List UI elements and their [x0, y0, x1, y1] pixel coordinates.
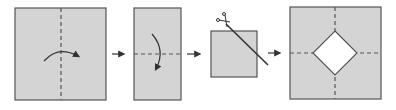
- step-2-rectangle: [134, 8, 181, 100]
- step-4-unfolded-square: [290, 7, 381, 99]
- step-3-small-square: [211, 13, 268, 78]
- paper-folding-diagram: [0, 0, 396, 110]
- step-1-square: [15, 8, 106, 100]
